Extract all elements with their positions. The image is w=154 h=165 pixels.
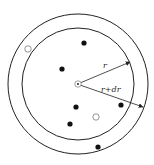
filled-point	[67, 121, 72, 126]
label-r-plus-dr: r+dr	[101, 85, 122, 94]
radial-shell-diagram: r r+dr	[0, 0, 154, 165]
center-marker-inner	[77, 83, 79, 85]
filled-point	[118, 102, 123, 107]
filled-point	[73, 104, 78, 109]
label-r: r	[103, 61, 108, 70]
filled-point	[81, 40, 86, 45]
hollow-point	[25, 46, 31, 52]
hollow-point	[93, 114, 99, 120]
filled-point	[95, 144, 100, 149]
filled-points	[59, 40, 123, 149]
hollow-points	[25, 46, 99, 120]
filled-point	[59, 66, 64, 71]
